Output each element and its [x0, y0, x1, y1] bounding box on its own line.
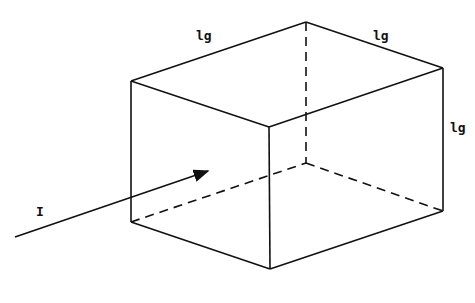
- edge-top-left: [131, 22, 306, 81]
- edge-label-right-vertical: lg: [450, 120, 466, 135]
- edge-front-bottom: [131, 222, 270, 269]
- hidden-edge-bottom-back: [306, 163, 443, 211]
- beam-label: I: [36, 204, 44, 219]
- edge-label-top-right: lg: [373, 28, 389, 43]
- beam-arrow: [15, 171, 208, 237]
- hidden-edge-bottom-left: [131, 163, 306, 222]
- cube-diagram: [0, 0, 475, 303]
- edge-bottom-right: [270, 211, 443, 269]
- edge-label-top-left: lg: [196, 28, 212, 43]
- edge-top-right: [269, 68, 443, 127]
- edge-front-right: [269, 127, 270, 269]
- edge-front-top: [131, 81, 269, 127]
